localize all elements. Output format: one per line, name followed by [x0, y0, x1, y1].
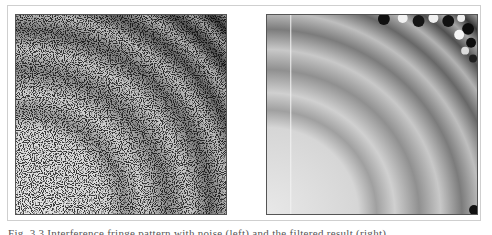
- noisy-fringe-graphic: [16, 15, 226, 214]
- filtered-fringe-graphic: [267, 15, 477, 214]
- noisy-fringe-image: [15, 14, 227, 215]
- filtered-fringe-image: [266, 14, 478, 215]
- figure-caption: Fig. 3.3 Interference fringe pattern wit…: [8, 226, 488, 235]
